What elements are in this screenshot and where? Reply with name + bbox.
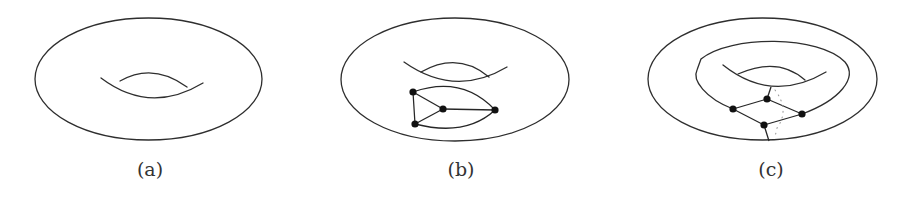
panel-label-b: (b) [448,158,475,180]
graph-edge-arc [415,110,495,128]
panel-b: (b) [341,18,569,180]
graph-vertex [409,88,416,95]
graph-vertex [439,105,446,112]
torus-hole-lower-arc [101,78,203,98]
graph-vertex [729,105,736,112]
torus-outer-outline [648,18,877,140]
toroidal-graph [729,87,805,141]
panel-label-c: (c) [758,158,783,180]
graph-edge [413,92,415,124]
torus-hole-lower-arc [723,65,826,86]
graph-edge-arc [413,86,495,110]
panel-c: (c) [648,18,877,180]
graph-edge [443,109,495,110]
graph-vertex [760,121,767,128]
graph-edge [415,109,443,124]
torus-hole-lower-arc [404,62,507,81]
panel-label-a: (a) [137,158,163,180]
torus-figure: (a) (b) [0,0,914,201]
graph-edge [767,99,802,114]
torus-outer-outline [35,18,262,140]
torus-outer-outline [341,18,569,141]
torus-hole-upper-arc [120,73,187,87]
planar-graph [409,86,498,128]
handle-loop-curve [696,41,849,114]
torus-hole-upper-arc [421,63,489,77]
graph-edge [413,92,443,109]
graph-edge [764,114,802,125]
panel-a: (a) [35,18,262,180]
graph-vertex [411,120,418,127]
torus-hole-upper-arc [738,66,805,80]
graph-vertex [491,106,498,113]
graph-vertex [763,95,770,102]
graph-edge [733,99,767,109]
back-side-dotted-edge [775,90,783,137]
graph-vertex [798,110,805,117]
graph-edge [733,109,764,125]
